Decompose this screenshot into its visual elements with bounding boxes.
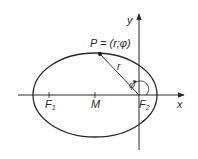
- center-label: M: [91, 98, 101, 110]
- ellipse-diagram: P = (r;φ) r φ y x F1 M F2: [0, 0, 198, 159]
- point-label: P = (r;φ): [90, 37, 131, 49]
- angle-label: φ: [129, 80, 135, 90]
- radius-label: r: [117, 61, 121, 72]
- point-p: [98, 52, 102, 56]
- y-axis-label: y: [126, 14, 134, 26]
- x-axis-label: x: [176, 98, 183, 110]
- focus2-label: F2: [139, 98, 150, 111]
- focus1-label: F1: [45, 98, 56, 111]
